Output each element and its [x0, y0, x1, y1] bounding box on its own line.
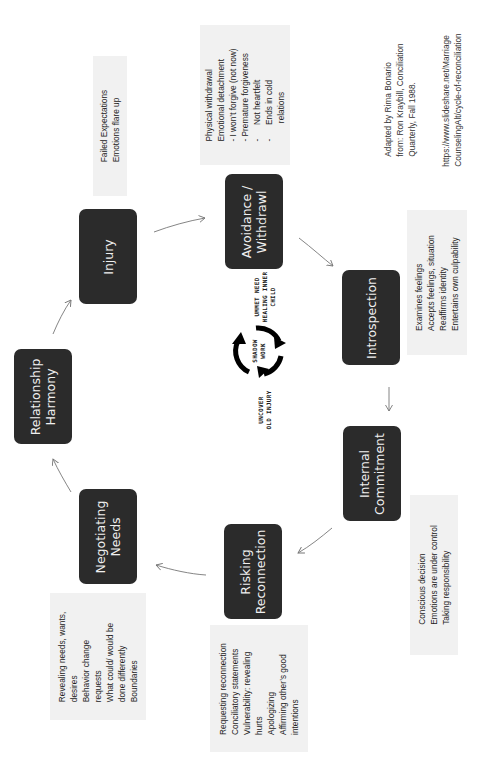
- stage-negotiating-needs: Negotiating Needs: [79, 489, 137, 584]
- note-line: Affirming other’s good: [277, 643, 289, 735]
- note-line: Emotional detachment: [215, 48, 227, 141]
- note-negotiating-needs: Revealing needs, wants, desires Behavior…: [50, 593, 146, 720]
- arrow-commitment-to-risking: [298, 528, 332, 553]
- note-line: Reaffirms identity: [437, 235, 449, 331]
- stage-label-line: Commitment: [372, 433, 387, 515]
- note-line: Conscious decision: [416, 525, 428, 625]
- stage-label-line: Negotiating: [93, 500, 108, 573]
- stage-label-line: Relationship: [28, 358, 43, 435]
- note-line: Physical withdrawal: [203, 48, 215, 141]
- stage-label-line: Reconnection: [253, 529, 268, 614]
- label-line: OLD INJURY: [265, 390, 273, 429]
- note-line: Conciliatory statements: [229, 643, 241, 735]
- note-line: intentions: [289, 643, 301, 735]
- label-line: CHILD: [269, 272, 277, 323]
- note-line: relations: [275, 48, 287, 141]
- url-line: https://www.slideshare.net/Marriage: [440, 33, 452, 166]
- arrow-avoidance-to-introspection: [299, 238, 333, 266]
- note-introspection: Examines feelings Accepts feelings, situ…: [407, 210, 467, 355]
- note-line: Failed Expectations: [98, 90, 110, 162]
- stage-relationship-harmony: Relationship Harmony: [14, 349, 72, 444]
- note-line: Revealing needs, wants,: [56, 611, 68, 701]
- stage-introspection: Introspection: [342, 270, 400, 365]
- stage-label-line: Risking: [238, 529, 253, 614]
- stage-injury: Injury: [79, 209, 137, 304]
- note-line: - Ends in cold: [263, 48, 275, 141]
- reconciliation-cycle-diagram: Relationship Harmony Injury Avoidance / …: [0, 0, 477, 774]
- note-line: Apologizing: [265, 643, 277, 735]
- label-line: UMMET NEED: [253, 272, 261, 323]
- note-line: What could/ would be: [104, 611, 116, 701]
- note-line: Vulnerability: revealing: [241, 643, 253, 735]
- note-line: hurts: [253, 643, 265, 735]
- note-line: Accepts feelings, situation: [425, 235, 437, 331]
- label-line: WORK: [259, 339, 267, 362]
- source-credit: Adapted by Rima Bonario from: Ron Kraybi…: [380, 20, 420, 180]
- note-line: Emotions flare up: [110, 90, 122, 162]
- arrow-risking-to-negotiating: [156, 565, 206, 575]
- note-line: Boundaries: [128, 611, 140, 701]
- shadow-work-center-label: SHADOW WORK: [240, 330, 278, 372]
- arrow-harmony-to-injury: [53, 300, 71, 334]
- stage-label-line: Avoidance /: [239, 185, 254, 258]
- arrow-negotiating-to-harmony: [53, 459, 71, 492]
- arrow-injury-to-avoidance: [154, 218, 205, 232]
- label-line: UNCOVER: [257, 390, 265, 429]
- note-line: - I won’t forgive (not now): [227, 48, 239, 141]
- note-line: done differently: [116, 611, 128, 701]
- stage-label-line: Internal: [357, 433, 372, 515]
- label-line: SHADOW: [251, 339, 259, 362]
- source-url: https://www.slideshare.net/Marriage Coun…: [437, 10, 467, 190]
- note-line: Entertains own culpability: [449, 235, 461, 331]
- credit-line: from: Ron Kraybill, Conciliation: [394, 43, 406, 156]
- note-line: Behavior change: [80, 611, 92, 701]
- stage-avoidance-withdrawal: Avoidance / Withdrawl: [225, 174, 283, 269]
- note-line: requests: [92, 611, 104, 701]
- note-injury: Failed Expectations Emotions flare up: [93, 56, 127, 196]
- note-line: - Premature forgiveness: [239, 48, 251, 141]
- stage-label-line: Introspection: [364, 277, 379, 359]
- note-line: Taking responsibility: [440, 525, 452, 625]
- shadow-work-unmet-need-label: UMMET NEED HEALING INNER CHILD: [248, 270, 282, 324]
- label-line: HEALING INNER: [261, 272, 269, 323]
- credit-line: Adapted by Rima Bonario: [382, 43, 394, 156]
- stage-label-line: Needs: [108, 500, 123, 573]
- stage-label-line: Injury: [101, 239, 116, 275]
- note-line: Requesting reconnection: [217, 643, 229, 735]
- note-risking-reconnection: Requesting reconnection Conciliatory sta…: [210, 625, 308, 752]
- url-line: CounselingAlt/cycle-of-reconciliation: [452, 33, 464, 166]
- note-avoidance: Physical withdrawal Emotional detachment…: [200, 25, 290, 165]
- stage-label-line: Withdrawl: [254, 185, 269, 258]
- note-line: - Not heartfelt: [251, 48, 263, 141]
- shadow-work-uncover-label: UNCOVER OLD INJURY: [253, 382, 277, 438]
- credit-line: Quarterly, Fall 1988.: [406, 43, 418, 156]
- note-line: Examines feelings: [413, 235, 425, 331]
- note-internal-commitment: Conscious decision Emotions are under co…: [410, 495, 458, 655]
- note-line: desires: [68, 611, 80, 701]
- stage-risking-reconnection: Risking Reconnection: [224, 524, 282, 619]
- stage-internal-commitment: Internal Commitment: [343, 426, 401, 521]
- stage-label-line: Harmony: [43, 358, 58, 435]
- note-line: Emotions are under control: [428, 525, 440, 625]
